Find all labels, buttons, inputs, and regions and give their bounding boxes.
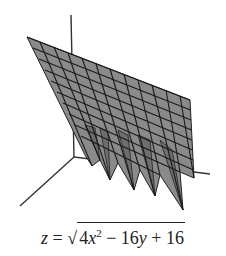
term1-coef: 4 (79, 228, 88, 248)
radicand: 4x2 − 16y + 16 (77, 222, 185, 248)
term1-exponent: 2 (96, 227, 102, 239)
minus-sign: − (106, 228, 116, 248)
equals-sign: = (53, 228, 63, 248)
term2-var: y (139, 228, 147, 248)
surface (27, 37, 194, 210)
equation-caption: z = √4x2 − 16y + 16 (0, 222, 226, 249)
term2-coef: 16 (121, 228, 139, 248)
term1-var: x (88, 228, 96, 248)
equation-lhs: z (41, 228, 48, 248)
x-axis (20, 157, 74, 206)
plus-sign: + (151, 228, 161, 248)
sqrt-icon: √ (67, 228, 77, 248)
term3-constant: 16 (166, 228, 184, 248)
surface-plot (0, 0, 226, 215)
